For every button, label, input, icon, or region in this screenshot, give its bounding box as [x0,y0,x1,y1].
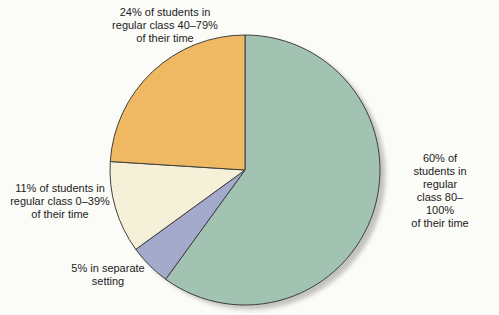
slice-label-regular-class-40-79: 24% of students in regular class 40–79% … [112,6,218,45]
slice-label-regular-class-80-100: 60% of students in regular class 80–100%… [411,152,470,230]
slice-label-regular-class-0-39: 11% of students in regular class 0–39% o… [10,182,110,221]
pie-chart-figure: 24% of students in regular class 40–79% … [0,0,499,315]
pie-slice-regular-class-40-79 [110,35,245,170]
slice-label-separate-setting: 5% in separate setting [71,262,144,288]
